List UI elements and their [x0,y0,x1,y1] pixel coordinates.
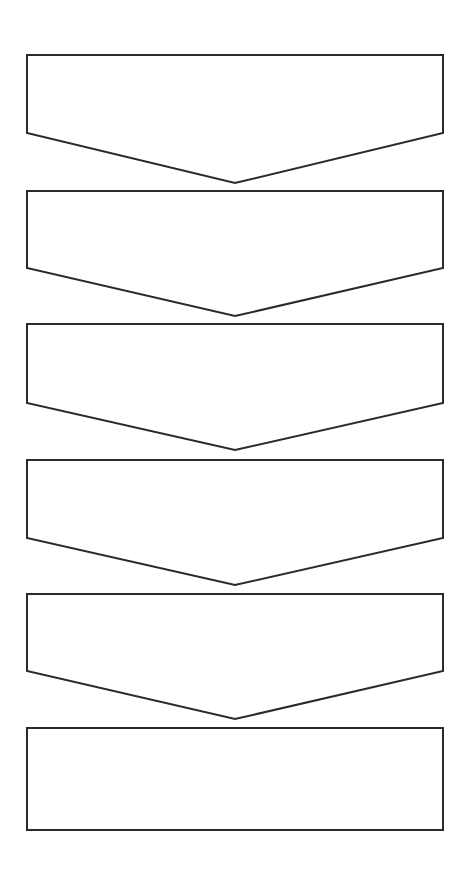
diagram-canvas [0,0,472,878]
chevron-block-1[interactable] [27,55,443,183]
shape-group [27,55,443,830]
chevron-block-3[interactable] [27,324,443,450]
rectangle-block-6[interactable] [27,728,443,830]
diagram-svg [0,0,472,878]
chevron-block-4[interactable] [27,460,443,585]
chevron-block-2[interactable] [27,191,443,316]
chevron-block-5[interactable] [27,594,443,719]
